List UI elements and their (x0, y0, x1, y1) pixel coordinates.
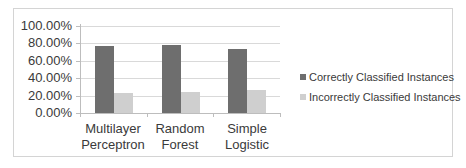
gridline (80, 43, 280, 44)
y-tick-label: 60.00% (16, 54, 72, 68)
legend-item-incorrect: Incorrectly Classified Instances (300, 87, 461, 107)
y-tick-label: 0.00% (16, 106, 72, 120)
bar-incorrect (114, 93, 133, 113)
y-tick-label: 20.00% (16, 89, 72, 103)
y-tick-label: 40.00% (16, 71, 72, 85)
y-tick-label: 100.00% (16, 19, 72, 33)
bar-correct (162, 45, 181, 113)
bar-correct (228, 49, 247, 113)
legend-label: Incorrectly Classified Instances (309, 91, 461, 103)
legend-swatch-icon (300, 74, 306, 80)
x-tick (213, 113, 214, 117)
x-tick-label: SimpleLogistic (212, 121, 282, 153)
bar-incorrect (181, 92, 200, 113)
x-axis (76, 113, 281, 114)
bar-incorrect (247, 90, 266, 113)
legend-item-correct: Correctly Classified Instances (300, 67, 461, 87)
legend: Correctly Classified Instances Incorrect… (300, 67, 461, 107)
bar-correct (95, 46, 114, 113)
legend-swatch-icon (300, 94, 306, 100)
x-tick (80, 113, 81, 117)
y-axis (80, 24, 81, 115)
legend-label: Correctly Classified Instances (309, 71, 454, 83)
x-tick (147, 113, 148, 117)
y-tick-label: 80.00% (16, 36, 72, 50)
gridline (80, 26, 280, 27)
x-tick-label: RandomForest (145, 121, 215, 153)
x-tick (280, 113, 281, 117)
x-tick-label: MultilayerPerceptron (78, 121, 148, 153)
